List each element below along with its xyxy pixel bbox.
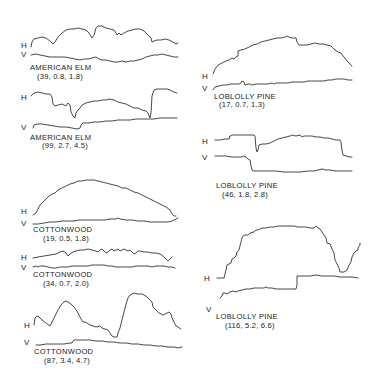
values-label: (87, 3.4, 4.7) [44,356,90,365]
values-label: (116, 5.2, 6.6) [225,321,275,330]
v-trace [33,118,177,129]
panel-american-elm-2: H V AMERICAN ELM (99, 2.7, 4.5) [21,89,177,150]
v-axis-label: V [21,50,27,59]
profile-traces-figure: H V AMERICAN ELM (39, 0.8, 1.8) H V AMER… [0,0,377,381]
v-axis-label: V [21,263,27,272]
species-label: COTTONWOOD [33,270,93,279]
v-axis-label: V [202,153,208,162]
panel-loblolly-pine-2: H V LOBLOLLY PINE (46, 1.8, 2.8) [202,135,352,199]
v-axis-label: V [24,338,30,347]
h-trace [217,226,360,278]
v-axis-label: V [206,305,212,314]
panel-cottonwood-2: H V COTTONWOOD (34, 0.7, 2.0) [21,249,175,288]
v-trace [31,54,178,62]
h-trace [215,135,352,157]
v-axis-label: V [21,219,27,228]
h-axis-label: H [21,93,27,102]
values-label: (39, 0.8, 1.8) [37,72,83,81]
values-label: (19, 0.5, 1.8) [43,234,89,243]
panel-loblolly-pine-3: H V LOBLOLLY PINE (116, 5.2, 6.6) [204,226,360,330]
values-label: (46, 1.8, 2.8) [222,190,268,199]
species-label: COTTONWOOD [33,225,93,234]
values-label: (99, 2.7, 4.5) [42,141,88,150]
panel-loblolly-pine-1: H V LOBLOLLY PINE (17, 0.7, 1.3) [202,36,352,109]
h-axis-label: H [21,253,27,262]
v-trace [213,79,352,90]
v-trace [220,275,358,298]
v-trace [33,218,178,224]
species-label: LOBLOLLY PINE [216,181,278,190]
v-trace [215,156,352,172]
h-axis-label: H [21,207,27,216]
h-axis-label: H [204,274,210,283]
values-label: (17, 0.7, 1.3) [219,100,265,109]
species-label: LOBLOLLY PINE [216,312,278,321]
panel-cottonwood-3: H V COTTONWOOD (87, 3.4, 4.7) [24,293,182,365]
h-axis-label: H [202,137,208,146]
h-axis-label: H [21,41,27,50]
h-axis-label: H [202,72,208,81]
h-axis-label: H [24,321,30,330]
v-axis-label: V [21,123,27,132]
h-trace [33,249,172,261]
h-trace [34,293,181,337]
v-trace [33,265,175,268]
panel-american-elm-1: H V AMERICAN ELM (39, 0.8, 1.8) [21,26,178,81]
values-label: (34, 0.7, 2.0) [43,279,89,288]
panel-cottonwood-1: H V COTTONWOOD (19, 0.5, 1.8) [21,180,178,243]
species-label: COTTONWOOD [34,347,94,356]
h-trace [31,89,177,118]
species-label: AMERICAN ELM [30,63,91,72]
h-trace [213,36,352,74]
v-axis-label: V [202,84,208,93]
h-trace [31,26,178,47]
h-trace [33,180,176,216]
